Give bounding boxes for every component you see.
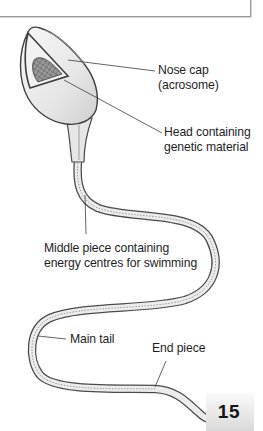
- leader-main-tail: [38, 336, 66, 339]
- label-nose-cap-line1: Nose cap: [158, 63, 219, 78]
- label-head-line1: Head containing: [164, 125, 251, 140]
- page-number: 15: [218, 401, 240, 423]
- label-middle-piece-line1: Middle piece containing: [44, 241, 197, 256]
- label-middle-piece-line2: energy centres for swimming: [44, 256, 197, 271]
- label-middle-piece: Middle piece containing energy centres f…: [44, 241, 197, 271]
- label-nose-cap: Nose cap (acrosome): [158, 63, 219, 93]
- label-nose-cap-line2: (acrosome): [158, 78, 219, 93]
- label-head-line2: genetic material: [164, 140, 251, 155]
- head: [21, 27, 98, 124]
- label-head: Head containing genetic material: [164, 125, 251, 155]
- sperm-cell-illustration: [0, 0, 263, 431]
- label-end-piece-text: End piece: [152, 341, 205, 356]
- label-main-tail-text: Main tail: [70, 332, 114, 347]
- label-main-tail: Main tail: [70, 332, 114, 347]
- page-number-box: 15: [206, 393, 254, 431]
- leader-end-piece: [155, 361, 166, 387]
- label-end-piece: End piece: [152, 341, 205, 356]
- tail: [32, 160, 216, 419]
